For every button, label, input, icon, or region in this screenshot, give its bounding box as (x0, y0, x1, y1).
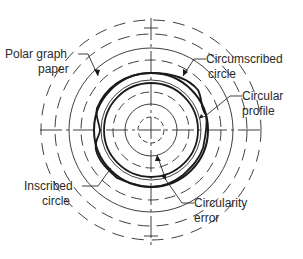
label-circumscribed-2: circle (208, 67, 236, 81)
label-inscribed-2: circle (42, 194, 70, 208)
label-circular-profile-2: profile (242, 104, 275, 118)
label-circular-profile-1: Circular (242, 89, 283, 103)
label-polar-graph-paper-2: paper (38, 62, 69, 76)
polar-circularity-diagram: Polar graph paper Circumscribed circle C… (0, 0, 303, 259)
label-circumscribed-1: Circumscribed (206, 52, 283, 66)
label-polar-graph-paper-1: Polar graph (5, 47, 67, 61)
label-inscribed-1: Inscribed (24, 179, 73, 193)
label-circularity-error-1: Circularity (194, 196, 247, 210)
label-circularity-error-2: error (194, 211, 219, 225)
